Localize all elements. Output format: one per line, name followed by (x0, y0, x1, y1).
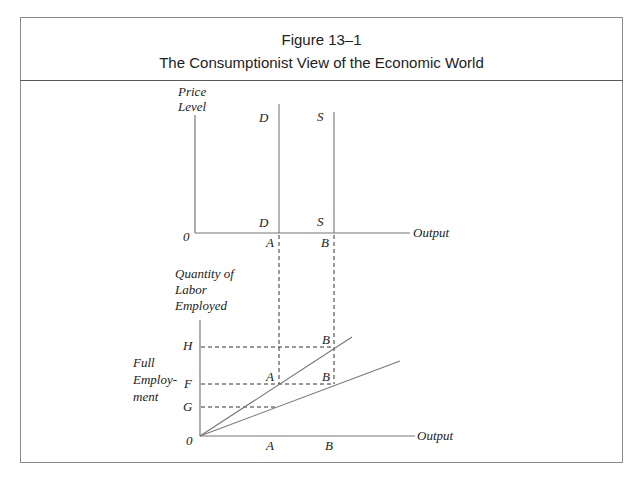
lower-panel: Quantity of Labor Employed Full Employ- … (132, 266, 454, 453)
upper-x-point-b: B (321, 235, 329, 250)
demand-label-bottom: D (258, 215, 269, 230)
diagram-canvas: Price Level Output 0 D D S S A B Quantit… (0, 0, 642, 481)
y-level-f: F (183, 376, 193, 391)
demand-label-top: D (258, 110, 269, 125)
lower-origin-label: 0 (186, 433, 193, 448)
point-label-steep-b: B (322, 332, 330, 347)
point-label-steep-a: A (265, 369, 274, 384)
lower-y-label-line2: Labor (174, 282, 208, 297)
side-label-line1: Full (132, 355, 155, 370)
upper-panel: Price Level Output 0 D D S S A B (177, 84, 450, 250)
lower-x-point-b: B (325, 438, 333, 453)
steep-production-line (200, 337, 352, 436)
upper-x-label: Output (413, 225, 450, 240)
upper-origin-label: 0 (183, 229, 190, 244)
lower-x-label: Output (417, 428, 454, 443)
lower-y-label-line1: Quantity of (175, 266, 236, 281)
upper-y-label-line2: Level (177, 99, 207, 114)
supply-label-bottom: S (317, 214, 324, 229)
shallow-production-line (200, 361, 400, 436)
y-level-g: G (183, 399, 193, 414)
upper-y-label-line1: Price (177, 84, 206, 99)
lower-y-label-line3: Employed (174, 298, 227, 313)
side-label-line3: ment (133, 389, 159, 404)
lower-x-point-a: A (265, 438, 274, 453)
side-label-line2: Employ- (132, 372, 177, 387)
point-label-shallow-b: B (322, 369, 330, 384)
y-level-h: H (182, 338, 193, 353)
supply-label-top: S (317, 109, 324, 124)
upper-x-point-a: A (265, 235, 274, 250)
